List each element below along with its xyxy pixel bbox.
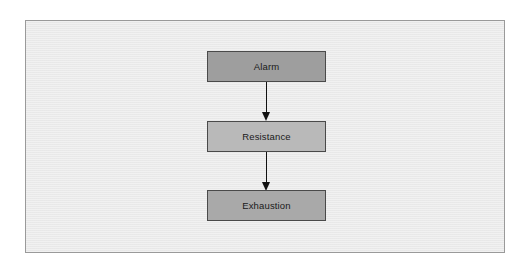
diagram-panel: Alarm Resistance Exhaustion bbox=[25, 20, 505, 253]
flow-node-alarm[interactable]: Alarm bbox=[207, 51, 326, 82]
figure-canvas: Alarm Resistance Exhaustion bbox=[0, 0, 530, 269]
flow-node-label: Alarm bbox=[254, 62, 280, 72]
arrow-shaft bbox=[266, 152, 267, 183]
flow-node-label: Resistance bbox=[242, 132, 291, 142]
flow-node-exhaustion[interactable]: Exhaustion bbox=[207, 190, 326, 221]
arrow-down-icon bbox=[262, 82, 271, 121]
arrow-head bbox=[262, 112, 270, 121]
flow-node-label: Exhaustion bbox=[242, 201, 291, 211]
flow-diagram: Alarm Resistance Exhaustion bbox=[26, 21, 504, 252]
flow-node-resistance[interactable]: Resistance bbox=[207, 121, 326, 152]
arrow-shaft bbox=[266, 82, 267, 113]
arrow-down-icon bbox=[262, 152, 271, 191]
